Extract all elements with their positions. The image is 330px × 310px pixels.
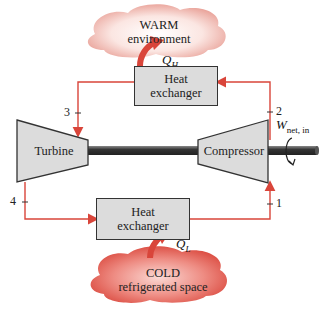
heat-exchanger-top: Heat exchanger <box>134 66 218 106</box>
cold-title: COLD <box>108 266 218 280</box>
warm-subtitle: environment <box>118 32 200 46</box>
turbine-label: Turbine <box>26 144 82 158</box>
compressor-label: Compressor <box>200 144 268 158</box>
state-1-label: 1 <box>276 196 282 211</box>
state-3-label: 3 <box>64 105 70 120</box>
cold-subtitle: refrigerated space <box>108 280 218 294</box>
warm-title: WARM <box>118 18 200 32</box>
warm-cloud-label: WARM environment <box>118 18 200 47</box>
heat-exchanger-bottom: Heat exchanger <box>96 198 190 240</box>
state-2-label: 2 <box>276 104 282 119</box>
state-4-label: 4 <box>10 194 16 209</box>
cold-cloud-label: COLD refrigerated space <box>108 266 218 295</box>
work-input-symbol: Wnet, in <box>276 117 309 135</box>
